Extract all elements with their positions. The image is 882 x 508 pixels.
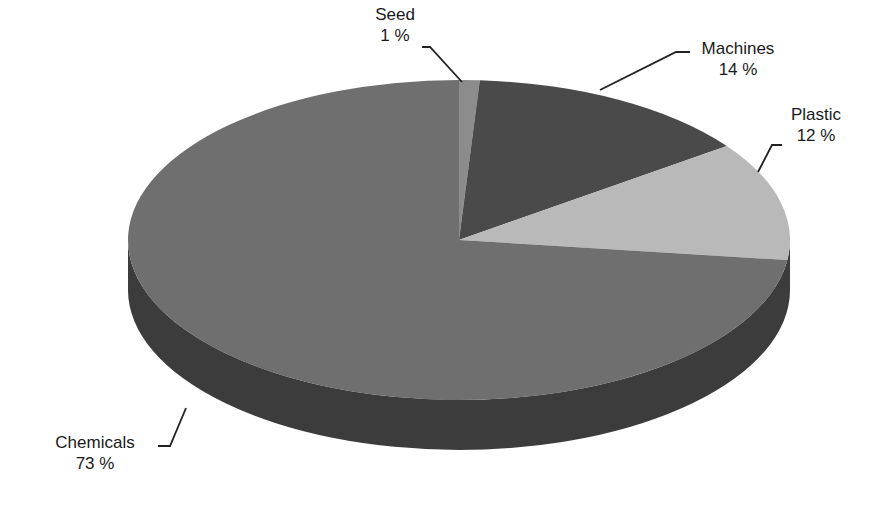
label-seed: Seed 1 % (360, 4, 430, 46)
plastic-leader-line (758, 145, 782, 172)
label-plastic-value: 12 % (776, 125, 856, 146)
label-seed-value: 1 % (360, 25, 430, 46)
machines-leader-line (600, 52, 690, 90)
label-chemicals-name: Chemicals (40, 432, 150, 453)
label-machines: Machines 14 % (688, 38, 788, 80)
chemicals-leader-line (158, 408, 186, 446)
label-seed-name: Seed (360, 4, 430, 25)
seed-leader-line (422, 47, 462, 82)
label-chemicals-value: 73 % (40, 453, 150, 474)
label-machines-value: 14 % (688, 59, 788, 80)
label-chemicals: Chemicals 73 % (40, 432, 150, 474)
label-plastic: Plastic 12 % (776, 104, 856, 146)
label-machines-name: Machines (688, 38, 788, 59)
label-plastic-name: Plastic (776, 104, 856, 125)
